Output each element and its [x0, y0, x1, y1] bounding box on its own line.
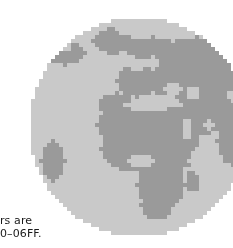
- caption-text: rs are 0–06FF.: [0, 214, 110, 240]
- caption-line-2: 0–06FF.: [0, 227, 110, 240]
- page-root: rs are 0–06FF.: [0, 0, 233, 248]
- globe-figure: [0, 0, 233, 248]
- pixelated-globe-image: [0, 0, 233, 248]
- caption-line-1: rs are: [0, 214, 110, 227]
